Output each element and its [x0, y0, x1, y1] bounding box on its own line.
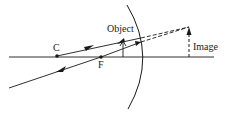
virtual-ray-extension	[141, 27, 189, 42]
center-of-curvature-point	[55, 54, 59, 58]
label-object: Object	[107, 23, 134, 34]
label-f: F	[98, 59, 104, 70]
ray-arrowhead-icon	[56, 66, 66, 72]
label-image: Image	[193, 41, 219, 52]
image-arrowhead-icon	[187, 27, 192, 35]
label-c: C	[53, 42, 60, 53]
ray-reflected-outward	[9, 57, 101, 88]
ray-diagram: C F Object Image	[0, 0, 227, 117]
virtual-ray-extension	[141, 27, 189, 38]
ray-arrowhead-icon	[135, 41, 141, 46]
